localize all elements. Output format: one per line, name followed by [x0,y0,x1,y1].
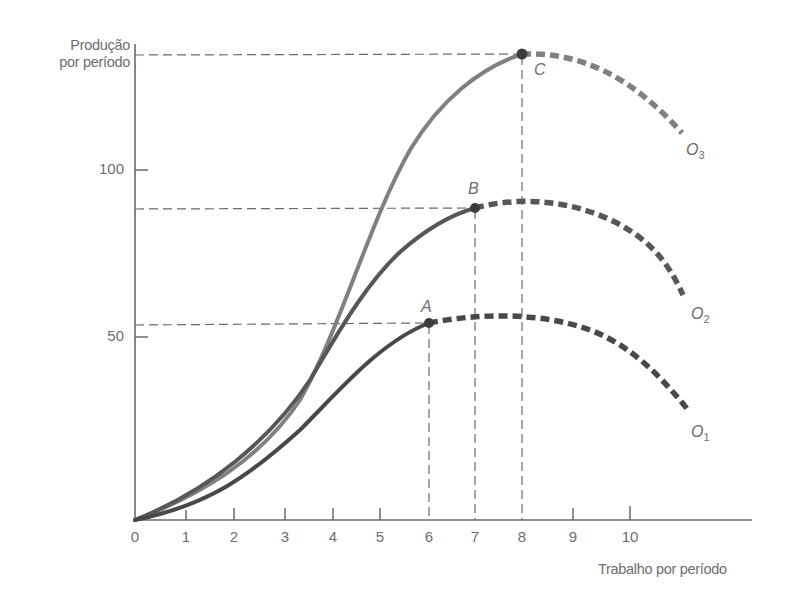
curve-label-o1-sub: 1 [703,431,709,443]
y-tick-label-100: 100 [84,160,124,177]
x-tick-label-6: 6 [414,528,444,545]
x-tick-label-8: 8 [507,528,537,545]
point-a-label: A [421,298,432,316]
point-c-label: C [534,61,546,79]
curve-o1-dashed [429,316,688,410]
curve-label-o2-main: O [691,305,703,322]
y-axis-label: Produção por período [56,37,130,71]
curve-o3-solid [135,54,522,520]
curve-label-o3-main: O [686,141,698,158]
curve-o2-dashed [475,201,683,295]
x-tick-label-0: 0 [120,528,150,545]
x-tick-label-2: 2 [219,528,249,545]
reference-lines [135,54,522,520]
x-tick-label-7: 7 [460,528,490,545]
curve-label-o3: O3 [686,141,705,161]
y-tick-label-50: 50 [84,327,124,344]
x-ticks [186,506,630,520]
point-a-marker [424,318,434,328]
y-ticks [135,170,148,337]
curve-label-o2-sub: 2 [703,313,709,325]
production-chart [0,0,794,601]
x-tick-label-10: 10 [615,528,645,545]
point-b-marker [470,203,480,213]
curve-label-o1: O1 [691,423,710,443]
y-axis-label-line1: Produção [56,37,130,54]
x-tick-label-3: 3 [270,528,300,545]
curve-label-o3-sub: 3 [698,149,704,161]
x-tick-label-1: 1 [171,528,201,545]
point-c-marker [517,49,528,60]
point-b-label: B [468,180,479,198]
x-tick-label-4: 4 [318,528,348,545]
curve-label-o1-main: O [691,423,703,440]
x-axis-label: Trabalho por período [598,561,727,577]
x-tick-label-9: 9 [558,528,588,545]
x-tick-label-5: 5 [365,528,395,545]
curve-o2-solid [135,208,475,520]
curve-o3-dashed [522,54,682,133]
curve-label-o2: O2 [691,305,710,325]
y-axis-label-line2: por período [56,54,130,71]
